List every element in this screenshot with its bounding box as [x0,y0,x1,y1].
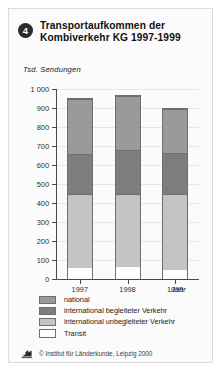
bar-segment [116,96,140,150]
bar-segment [68,194,92,269]
figure-number-badge: 4 [18,23,33,38]
y-axis-tick-label: 400 [23,199,49,208]
y-axis-tick-label: 600 [23,161,49,170]
bar-segment [163,194,187,271]
x-axis-tick-label: 1997 [60,285,100,294]
card-footer: © Institut für Länderkunde, Leipzig 2000 [21,349,211,361]
y-axis-tick-label: 1 000 [23,85,49,94]
x-axis-tick [175,280,176,284]
bar-1998 [115,95,141,279]
bar-segment [68,154,92,194]
y-axis-tick-label: 500 [23,180,49,189]
y-axis-tick-label: 100 [23,256,49,265]
y-axis-tick-label: 700 [23,142,49,151]
bar-segment [116,150,140,195]
legend-swatch [39,318,56,326]
y-axis-tick-label: 0 [23,275,49,284]
bar-segment [116,194,140,267]
legend-label: international begleiteter Verkehr [64,306,167,317]
y-axis-line [56,89,57,280]
legend-item: Transit [39,329,214,340]
legend-item: international begleiteter Verkehr [39,306,214,317]
chart-card: 4 Transportaufkommen der Kombiverkehr KG… [8,8,213,363]
bar-segment [68,99,92,154]
x-axis-tick-label: 1998 [108,285,148,294]
card-header: 4 Transportaufkommen der Kombiverkehr KG… [9,19,214,59]
legend-swatch [39,307,56,315]
legend-item: national [39,295,214,306]
legend-item: international unbegleiteter Verkehr [39,317,214,328]
x-axis-label: Jahr [171,285,186,294]
page-title: Transportaufkommen der Kombiverkehr KG 1… [40,20,208,45]
gridline [56,89,199,90]
institute-logo-icon [21,349,34,359]
legend-swatch [39,296,56,304]
y-axis-label: Tsd. Sendungen [23,65,81,74]
y-axis-tick-label: 800 [23,123,49,132]
chart-plot-area: 01002003004005006007008009001 000 199719… [23,77,207,292]
bar-1997 [67,98,93,279]
bar-1999 [162,108,188,279]
bar-segment [163,109,187,153]
legend-label: national [64,295,90,306]
legend-label: Transit [64,329,86,340]
legend-swatch [39,329,56,337]
chart-legend: nationalinternational begleiteter Verkeh… [39,295,214,340]
x-axis-tick [128,280,129,284]
bar-segment [163,153,187,194]
copyright-text: © Institut für Länderkunde, Leipzig 2000 [39,350,152,357]
y-axis-tick-label: 200 [23,237,49,246]
x-axis-tick [80,280,81,284]
y-axis-tick-label: 300 [23,218,49,227]
y-axis-tick-label: 900 [23,104,49,113]
legend-label: international unbegleiteter Verkehr [64,317,175,328]
